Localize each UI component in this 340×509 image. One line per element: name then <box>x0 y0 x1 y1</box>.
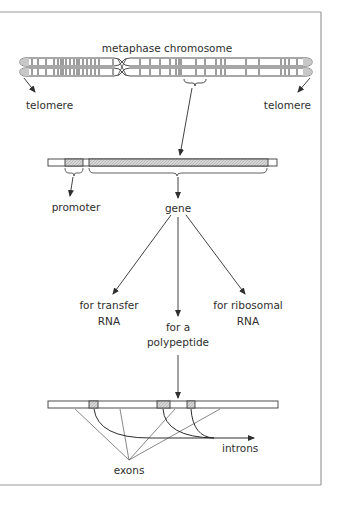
intron-1 <box>89 401 98 408</box>
frame <box>0 12 321 485</box>
braces <box>65 168 267 176</box>
telomere-right-arrow <box>298 78 310 92</box>
ribosomal-rna-label-line1: for ribosomal <box>213 299 283 311</box>
polypeptide-label-line1: for a <box>166 321 190 333</box>
ribosomal-rna-arrow <box>186 215 245 294</box>
transfer-rna-label-line2: RNA <box>98 315 121 327</box>
promoter-arrow <box>70 177 73 196</box>
metaphase-chromosome <box>20 58 312 86</box>
transfer-rna-label-line1: for transfer <box>79 299 139 311</box>
chromosome-title: metaphase chromosome <box>102 42 232 54</box>
transfer-rna-arrow <box>113 215 171 294</box>
introns-label: introns <box>222 442 258 454</box>
intron-curves <box>94 409 214 438</box>
exons-label: exons <box>114 464 145 476</box>
exon-lines <box>75 409 220 460</box>
polypeptide-gene-bar <box>48 401 278 408</box>
gene-region <box>89 159 268 166</box>
polypeptide-label-line2: polypeptide <box>147 336 209 348</box>
intron-3 <box>187 401 195 408</box>
promoter-label: promoter <box>52 201 101 213</box>
intron-2 <box>157 401 170 408</box>
ribosomal-rna-label-line2: RNA <box>237 315 260 327</box>
promoter-region <box>65 159 83 166</box>
telomere-left-arrow <box>24 78 35 92</box>
gene-structure-diagram: metaphase chromosome telomere telomere <box>0 0 340 509</box>
gene-label: gene <box>165 202 191 214</box>
dna-segment-bar <box>48 159 277 166</box>
zoom-arrow <box>180 88 192 155</box>
telomere-right-label: telomere <box>264 99 311 111</box>
telomere-left-label: telomere <box>26 99 73 111</box>
